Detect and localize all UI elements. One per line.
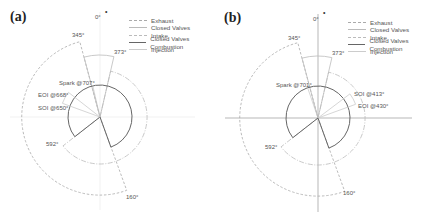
dashed-line-icon — [129, 20, 147, 21]
soi-label: SOI @650° — [38, 105, 69, 111]
eoi-label: EOI @668° — [38, 92, 69, 98]
legend-label: Closed Valves — [151, 24, 190, 31]
exhaust-sector — [240, 43, 345, 196]
solid-line-icon — [129, 27, 147, 28]
legend: Exhaust Closed Valves Intake Closed Valv… — [129, 17, 221, 53]
legend-item-combustion: Closed Valves Combustion — [129, 39, 221, 46]
legend-label: Injection — [151, 46, 174, 53]
light-line-icon — [348, 51, 366, 52]
solid-line-icon — [348, 29, 366, 30]
angle-label-0: 0° — [313, 16, 319, 22]
legend-item-combustion: Closed Valves Combustion — [348, 41, 441, 48]
spark-label: Spark @707° — [59, 80, 95, 86]
exhaust-sector — [22, 42, 127, 195]
light-line-icon — [129, 49, 147, 50]
legend-item-exhaust: Exhaust — [348, 19, 441, 26]
dash-dot-line-icon — [348, 37, 366, 38]
legend-label: Closed Valves — [370, 26, 409, 33]
dash-dot-line-icon — [129, 35, 147, 36]
angle-label-592: 592° — [265, 144, 278, 150]
angle-label-0: 0° — [95, 14, 101, 20]
angle-label-592: 592° — [46, 141, 59, 147]
angle-label-373: 373° — [114, 49, 127, 55]
dashed-line-icon — [348, 22, 366, 23]
dark-line-icon — [129, 42, 146, 43]
legend-item-closed-valves: Closed Valves — [348, 26, 441, 33]
legend-label: Exhaust — [151, 17, 173, 24]
marker-dot: • — [323, 9, 326, 16]
spark-marker — [308, 88, 318, 118]
dark-line-icon — [348, 44, 365, 45]
marker-dot: • — [105, 8, 108, 15]
eoi-label: EOI @430° — [358, 103, 389, 109]
legend-item-exhaust: Exhaust — [129, 17, 221, 24]
legend: Exhaust Closed Valves Intake Closed Valv… — [348, 19, 441, 55]
panel-b: (b) 0° • 345° 373° 592° 160° Spark @701°… — [220, 0, 441, 214]
angle-label-160: 160° — [343, 190, 356, 196]
legend-label: Injection — [370, 48, 393, 55]
legend-label: Exhaust — [370, 19, 392, 26]
angle-label-160: 160° — [126, 194, 139, 200]
angle-label-373: 373° — [332, 50, 345, 56]
panel-a: (a) 0° • 345° 373° 592° 160° Spark @707°… — [0, 0, 221, 214]
legend-item-closed-valves: Closed Valves — [129, 24, 221, 31]
angle-label-345: 345° — [288, 35, 301, 41]
spark-label: Spark @701° — [276, 82, 312, 88]
angle-label-345: 345° — [72, 32, 85, 38]
soi-label: SOI @413° — [354, 91, 385, 97]
